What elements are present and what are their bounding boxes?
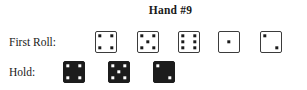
die-pip [66,64,69,67]
die-pip [263,34,266,37]
die-pip [98,34,101,37]
first-roll-die-3[interactable] [178,31,200,53]
hold-die-1[interactable] [63,61,85,83]
die-pip [140,34,143,37]
hold-row: Hold: [0,59,307,85]
die-pip [111,64,114,67]
first-roll-label: First Roll: [9,29,56,55]
first-roll-die-5[interactable] [260,31,282,53]
die-pip [123,76,126,79]
first-roll-die-4[interactable] [218,31,240,53]
die-pip [193,46,196,49]
die-pip [156,64,159,67]
hold-die-3[interactable] [153,61,175,83]
die-pip [152,34,155,37]
die-pip [181,46,184,49]
die-pip [117,70,120,73]
die-pip [168,76,171,79]
die-pip [111,76,114,79]
die-pip [66,76,69,79]
first-roll-row: First Roll: [0,29,307,55]
first-roll-die-2[interactable] [137,31,159,53]
die-pip [193,34,196,37]
die-pip [123,64,126,67]
die-pip [78,64,81,67]
die-pip [140,46,143,49]
die-pip [275,46,278,49]
die-pip [110,34,113,37]
die-pip [227,40,230,43]
die-pip [146,40,149,43]
page-title: Hand #9 [0,4,307,16]
die-pip [152,46,155,49]
first-roll-die-1[interactable] [95,31,117,53]
die-pip [98,46,101,49]
die-pip [181,34,184,37]
die-pip [78,76,81,79]
die-pip [193,40,196,43]
hold-label: Hold: [9,59,35,85]
hold-die-2[interactable] [108,61,130,83]
die-pip [110,46,113,49]
die-pip [181,40,184,43]
